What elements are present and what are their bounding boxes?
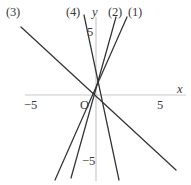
- x-axis-label: x: [177, 83, 183, 96]
- x-tick-label-neg5: −5: [24, 99, 37, 112]
- graph-figure: (3) (4) (2) (1) y x 5 −5 −5 5 O: [0, 0, 191, 185]
- coordinate-plot: [0, 0, 191, 185]
- x-tick-label-5: 5: [157, 99, 163, 112]
- y-tick-label-neg5: −5: [82, 155, 95, 168]
- curve-label-4: (4): [66, 6, 80, 19]
- y-axis-label: y: [92, 6, 98, 19]
- curve-label-3: (3): [6, 6, 20, 19]
- curve-label-2: (2): [108, 6, 122, 19]
- y-tick-label-5: 5: [87, 26, 93, 39]
- origin-label: O: [80, 99, 89, 112]
- line-curve-3: [21, 27, 176, 170]
- curve-label-1: (1): [128, 6, 142, 19]
